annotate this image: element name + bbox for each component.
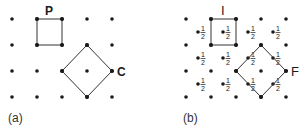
lattice-diagram: P C (a) 121212121212121212121212 I F (b) (0, 0, 305, 132)
fraction-numerator: 1 (201, 51, 205, 58)
fraction-denominator: 2 (251, 59, 255, 66)
lattice-point (209, 95, 213, 99)
label-p: P (45, 4, 53, 18)
half-lattice-point (246, 30, 250, 34)
lattice-point (284, 95, 288, 99)
label-i: I (221, 3, 225, 18)
vertex-point (110, 69, 114, 73)
vertex-point (284, 69, 288, 73)
lattice-point (110, 43, 114, 47)
vertex-point (259, 95, 263, 99)
fraction-numerator: 1 (276, 25, 280, 32)
caption-a: (a) (8, 111, 23, 125)
vertex-point (85, 43, 89, 47)
lattice-point (284, 43, 288, 47)
vertex-point (234, 69, 238, 73)
fraction-numerator: 1 (201, 77, 205, 84)
vertex-point (35, 43, 39, 47)
lattice-point (259, 17, 263, 21)
vertex-point (60, 69, 64, 73)
lattice-point (184, 95, 188, 99)
vertex-point (85, 95, 89, 99)
caption-b: (b) (183, 111, 198, 125)
half-lattice-point (221, 82, 225, 86)
lattice-point (85, 17, 89, 21)
lattice-point (184, 69, 188, 73)
half-lattice-point (196, 82, 200, 86)
fraction-denominator: 2 (276, 33, 280, 40)
lattice-point (10, 69, 14, 73)
half-lattice-point (221, 56, 225, 60)
lattice-point (184, 43, 188, 47)
lattice-point (10, 95, 14, 99)
lattice-point (110, 17, 114, 21)
lattice-point (110, 95, 114, 99)
lattice-point (85, 69, 89, 73)
vertex-point (209, 43, 213, 47)
half-lattice-point (196, 30, 200, 34)
panel-a: P C (a) (8, 4, 126, 125)
fraction-denominator: 2 (226, 85, 230, 92)
vertex-point (60, 17, 64, 21)
panel-b: 121212121212121212121212 I F (b) (183, 3, 299, 125)
half-points-b: 121212121212121212121212 (196, 25, 280, 92)
vertex-point (209, 17, 213, 21)
lattice-point (35, 69, 39, 73)
lattice-point (60, 95, 64, 99)
fraction-numerator: 1 (226, 77, 230, 84)
fraction-numerator: 1 (226, 25, 230, 32)
fraction-numerator: 1 (276, 51, 280, 58)
fraction-denominator: 2 (201, 85, 205, 92)
half-lattice-point (221, 30, 225, 34)
lattice-point (234, 95, 238, 99)
lattice-point (259, 69, 263, 73)
fraction-denominator: 2 (201, 33, 205, 40)
fraction-numerator: 1 (201, 25, 205, 32)
lattice-point (10, 43, 14, 47)
half-lattice-point (196, 56, 200, 60)
fraction-denominator: 2 (226, 33, 230, 40)
fraction-denominator: 2 (201, 59, 205, 66)
lattice-point (10, 17, 14, 21)
fraction-denominator: 2 (251, 33, 255, 40)
lattice-point (184, 17, 188, 21)
vertex-point (60, 43, 64, 47)
lattice-point (284, 17, 288, 21)
fraction-denominator: 2 (226, 59, 230, 66)
label-c: C (117, 65, 126, 79)
label-f: F (291, 64, 299, 79)
fraction-numerator: 1 (226, 51, 230, 58)
vertex-point (35, 17, 39, 21)
half-lattice-point (271, 30, 275, 34)
vertex-point (259, 43, 263, 47)
square-p (37, 19, 62, 45)
vertex-point (234, 43, 238, 47)
fraction-numerator: 1 (251, 25, 255, 32)
vertex-point (234, 17, 238, 21)
lattice-point (35, 95, 39, 99)
lattice-point (209, 69, 213, 73)
fraction-numerator: 1 (251, 77, 255, 84)
fraction-denominator: 2 (276, 85, 280, 92)
